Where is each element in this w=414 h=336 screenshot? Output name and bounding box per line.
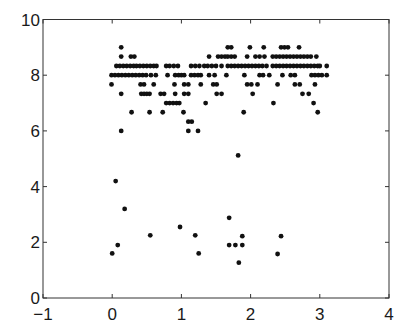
scatter-point	[313, 82, 318, 87]
scatter-point	[160, 110, 165, 115]
scatter-point	[167, 64, 172, 69]
scatter-point	[242, 73, 247, 78]
scatter-point	[119, 91, 124, 96]
scatter-point	[224, 73, 229, 78]
scatter-point	[207, 73, 212, 78]
scatter-point	[177, 101, 182, 106]
scatter-point	[109, 82, 114, 87]
y-tick-labels: 0246810	[21, 11, 40, 309]
scatter-point	[286, 45, 291, 50]
y-tick-label: 0	[31, 289, 40, 308]
scatter-point	[113, 179, 118, 184]
scatter-point	[115, 243, 120, 248]
scatter-point	[292, 73, 297, 78]
scatter-point	[147, 91, 152, 96]
scatter-point	[261, 45, 266, 50]
scatter-point	[119, 129, 124, 134]
y-tick-label: 10	[21, 11, 40, 30]
x-tick-label: 4	[384, 305, 393, 324]
scatter-point	[279, 234, 284, 239]
scatter-point	[249, 82, 254, 87]
scatter-point	[314, 54, 319, 59]
scatter-point	[253, 54, 258, 59]
scatter-point	[207, 54, 212, 59]
x-tick-label: 1	[177, 305, 186, 324]
scatter-point	[241, 110, 246, 115]
scatter-point	[189, 64, 194, 69]
scatter-point	[189, 119, 194, 124]
y-tick-label: 8	[31, 66, 40, 85]
scatter-point	[260, 64, 265, 69]
scatter-point	[151, 82, 156, 87]
scatter-point	[119, 54, 124, 59]
scatter-point	[240, 243, 245, 248]
scatter-point	[311, 101, 316, 106]
scatter-point	[186, 82, 191, 87]
scatter-point	[219, 64, 224, 69]
scatter-point	[153, 73, 158, 78]
scatter-point	[271, 101, 276, 106]
scatter-point	[154, 64, 159, 69]
scatter-point	[240, 234, 245, 239]
scatter-point	[144, 73, 149, 78]
scatter-point	[129, 110, 134, 115]
scatter-point	[198, 82, 203, 87]
scatter-point	[227, 215, 232, 220]
scatter-point	[261, 73, 266, 78]
scatter-point	[182, 91, 187, 96]
scatter-point	[227, 243, 232, 248]
data-points	[109, 45, 329, 265]
scatter-point	[262, 54, 267, 59]
scatter-point	[178, 225, 183, 230]
scatter-point	[300, 91, 305, 96]
scatter-point	[203, 101, 208, 106]
scatter-point	[280, 73, 285, 78]
scatter-point	[193, 233, 198, 238]
x-tick-labels: −101234	[33, 305, 393, 324]
y-tick-label: 6	[31, 122, 40, 141]
scatter-point	[324, 64, 329, 69]
y-tick-label: 2	[31, 233, 40, 252]
scatter-point	[214, 64, 219, 69]
x-tick-label: 3	[315, 305, 324, 324]
scatter-point	[193, 64, 198, 69]
scatter-point	[209, 64, 214, 69]
scatter-point	[197, 64, 202, 69]
scatter-point	[292, 82, 297, 87]
y-tick-label: 4	[31, 178, 40, 197]
axis-ticks	[43, 20, 389, 299]
scatter-point	[250, 91, 255, 96]
scatter-point	[297, 82, 302, 87]
scatter-point	[219, 91, 224, 96]
scatter-point	[275, 82, 280, 87]
scatter-point	[236, 153, 241, 158]
scatter-point	[214, 91, 219, 96]
scatter-point	[229, 45, 234, 50]
scatter-point	[319, 73, 324, 78]
scatter-point	[275, 252, 280, 257]
scatter-point	[248, 45, 253, 50]
scatter-point	[267, 73, 272, 78]
scatter-point	[142, 82, 147, 87]
scatter-point	[306, 91, 311, 96]
scatter-point	[196, 251, 201, 256]
scatter-point	[182, 73, 187, 78]
scatter-point	[182, 82, 187, 87]
scatter-point	[205, 64, 210, 69]
scatter-point	[297, 45, 302, 50]
scatter-point	[233, 243, 238, 248]
scatter-point	[317, 64, 322, 69]
scatter-point	[119, 45, 124, 50]
scatter-point	[181, 110, 186, 115]
plot-area: −101234 0246810	[21, 11, 394, 325]
scatter-point	[245, 82, 250, 87]
scatter-point	[264, 64, 269, 69]
x-tick-label: 0	[107, 305, 116, 324]
scatter-point	[171, 64, 176, 69]
scatter-chart: −101234 0246810	[0, 0, 414, 336]
scatter-point	[110, 251, 115, 256]
scatter-point	[186, 91, 191, 96]
scatter-point	[212, 73, 217, 78]
x-tick-label: 2	[246, 305, 255, 324]
scatter-point	[186, 129, 191, 134]
